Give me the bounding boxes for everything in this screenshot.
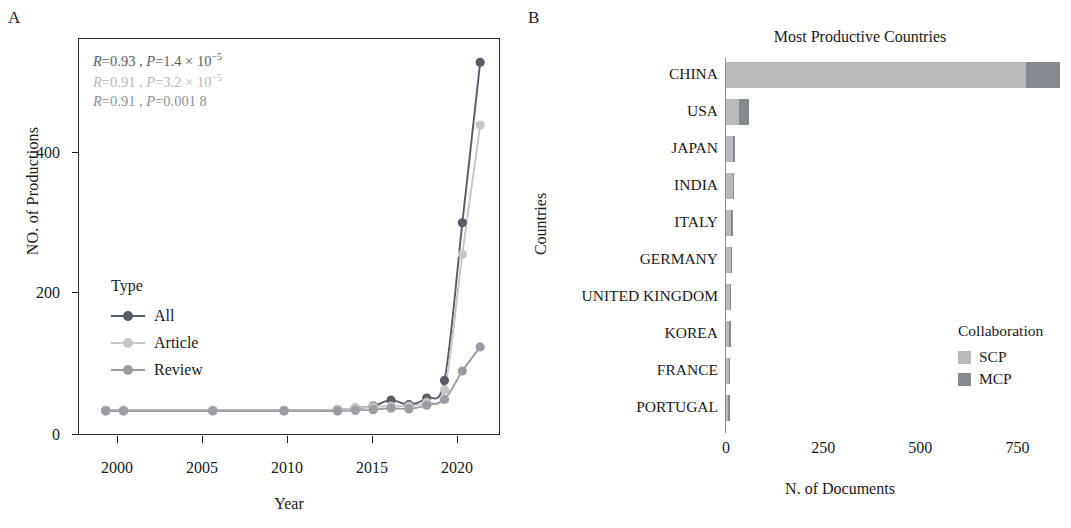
panel-b-xtick-label: 500 (885, 439, 955, 457)
panel-b-category-label: UNITED KINGDOM (498, 287, 718, 305)
panel-a-point-review[interactable] (386, 404, 395, 413)
panel-a-legend-item-article[interactable]: Article (111, 329, 203, 356)
panel-b-legend-label-mcp: MCP (979, 370, 1012, 388)
panel-a-xtick-label-2020: 2020 (427, 459, 487, 477)
panel-a-point-all[interactable] (440, 376, 449, 385)
panel-b-bar-segment-mcp[interactable] (1026, 62, 1060, 88)
panel-a-xtick-label-2010: 2010 (257, 459, 317, 477)
panel-b-bar-segment-mcp[interactable] (730, 284, 732, 310)
panel-b-xtick-label: 750 (982, 439, 1052, 457)
panel-a-ytick-label-0: 0 (16, 426, 60, 444)
panel-label-a: A (8, 8, 20, 28)
legend-marker-icon-all (111, 310, 145, 322)
panel-label-b: B (528, 8, 539, 28)
figure-root: A NO. of Productions Year 400 200 0 2000… (0, 0, 1071, 528)
panel-b-legend-label-scp: SCP (979, 348, 1007, 366)
legend-marker-icon-article (111, 337, 145, 349)
panel-b-category-label: FRANCE (498, 361, 718, 379)
panel-b-bar-segment-scp[interactable] (726, 173, 733, 199)
panel-a-point-review[interactable] (279, 407, 288, 416)
panel-a-ytick-label-200: 200 (16, 284, 60, 302)
panel-a-xtick-label-2000: 2000 (87, 459, 147, 477)
panel-b-bar-segment-mcp[interactable] (731, 210, 733, 236)
panel-b-bar-segment-mcp[interactable] (731, 247, 733, 273)
panel-a-point-review[interactable] (422, 401, 431, 410)
panel-a-point-article[interactable] (440, 385, 449, 394)
panel-a-legend-item-review[interactable]: Review (111, 356, 203, 383)
panel-b-bar-segment-mcp[interactable] (739, 99, 749, 125)
panel-b-legend: Collaboration SCP MCP (958, 322, 1043, 390)
panel-a-point-review[interactable] (333, 407, 342, 416)
panel-b-bar-segment-mcp[interactable] (733, 173, 735, 199)
panel-a-point-review[interactable] (476, 342, 485, 351)
panel-b-bar-segment-scp[interactable] (726, 136, 733, 162)
panel-a-ytick-label-400: 400 (16, 144, 60, 162)
panel-b-category-label: INDIA (498, 176, 718, 194)
panel-a-legend: Type All Article (111, 277, 203, 383)
panel-b-title: Most Productive Countries (710, 28, 1010, 46)
panel-b-bar-segment-scp[interactable] (726, 62, 1026, 88)
panel-b-bar-segment-mcp[interactable] (733, 136, 735, 162)
legend-marker-icon-review (111, 364, 145, 376)
legend-swatch-icon-mcp (958, 373, 971, 386)
panel-b-xtick-label: 250 (788, 439, 858, 457)
panel-a-point-review[interactable] (119, 407, 128, 416)
panel-a-annotation-all: R=0.93 , P=1.4 × 10−5 (93, 51, 222, 70)
panel-b-legend-item-mcp[interactable]: MCP (958, 368, 1043, 390)
panel-a-point-all[interactable] (458, 218, 467, 227)
panel-a-xtick-label-2015: 2015 (342, 459, 402, 477)
panel-a-legend-label-article: Article (154, 334, 198, 352)
panel-a-point-review[interactable] (369, 405, 378, 414)
panel-a-xtick-mark-2015 (372, 436, 373, 443)
panel-b-category-label: KOREA (498, 324, 718, 342)
panel-a-point-article[interactable] (476, 121, 485, 130)
panel-a-legend-title: Type (111, 277, 203, 295)
panel-a-plot-area: R=0.93 , P=1.4 × 10−5 R=0.91 , P=3.2 × 1… (78, 38, 500, 435)
panel-a-legend-label-all: All (154, 307, 174, 325)
panel-b-legend-item-scp[interactable]: SCP (958, 346, 1043, 368)
panel-a-xtick-label-2005: 2005 (172, 459, 232, 477)
legend-swatch-icon-scp (958, 351, 971, 364)
panel-a-xtick-mark-2005 (202, 436, 203, 443)
panel-a-xtick-mark-2000 (117, 436, 118, 443)
panel-a-point-review[interactable] (101, 407, 110, 416)
panel-a-y-axis-title: NO. of Productions (24, 96, 42, 286)
panel-a-point-review[interactable] (208, 407, 217, 416)
panel-b: B Most Productive Countries Countries N.… (520, 0, 1071, 528)
panel-a-point-review[interactable] (404, 404, 413, 413)
panel-b-category-label: CHINA (498, 65, 718, 83)
panel-b-x-axis-title: N. of Documents (640, 480, 1040, 498)
panel-b-category-label: PORTUGAL (498, 398, 718, 416)
panel-a-legend-item-all[interactable]: All (111, 302, 203, 329)
panel-a-point-review[interactable] (458, 366, 467, 375)
panel-a-legend-label-review: Review (154, 361, 203, 379)
panel-a-point-all[interactable] (476, 58, 485, 67)
panel-b-category-label: GERMANY (498, 250, 718, 268)
panel-b-bar-segment-scp[interactable] (726, 99, 739, 125)
panel-b-xtick-label: 0 (691, 439, 761, 457)
panel-a-point-review[interactable] (351, 406, 360, 415)
panel-b-bar-segment-mcp[interactable] (729, 358, 731, 384)
panel-a-point-review[interactable] (440, 395, 449, 404)
panel-a: A NO. of Productions Year 400 200 0 2000… (0, 0, 520, 528)
panel-a-annotation-article: R=0.91 , P=3.2 × 10−5 (93, 72, 222, 91)
panel-a-point-article[interactable] (458, 250, 467, 259)
panel-b-legend-title: Collaboration (958, 322, 1043, 340)
panel-a-xtick-mark-2010 (287, 436, 288, 443)
panel-b-bar-segment-mcp[interactable] (728, 395, 730, 421)
panel-b-bar-segment-mcp[interactable] (729, 321, 731, 347)
panel-a-annotation-review: R=0.91 , P=0.001 8 (93, 93, 207, 110)
panel-a-x-axis-title: Year (78, 495, 500, 513)
panel-a-xtick-mark-2020 (457, 436, 458, 443)
panel-b-category-label: USA (498, 102, 718, 120)
panel-b-category-label: ITALY (498, 213, 718, 231)
panel-b-category-label: JAPAN (498, 139, 718, 157)
